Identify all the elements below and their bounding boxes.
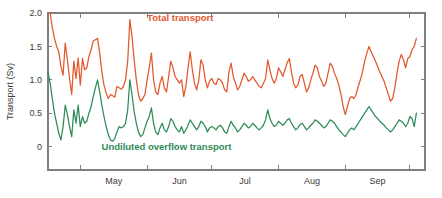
y-axis-title: Transport (Sv)	[5, 63, 15, 120]
series-line-total-transport	[48, 13, 416, 115]
y-tick-label-4: 2.0	[29, 8, 42, 18]
annotation-undiluted-overflow: Undiluted overflow transport	[102, 141, 233, 152]
transport-line-chart: 00.51.01.52.0MayJunJulAugSepTransport (S…	[0, 0, 442, 198]
chart-figure: 00.51.01.52.0MayJunJulAugSepTransport (S…	[0, 0, 442, 198]
y-tick-label-3: 1.5	[29, 42, 42, 52]
y-tick-label-1: 0.5	[29, 108, 42, 118]
x-month-label-jul: Jul	[239, 176, 251, 186]
annotation-total-transport: Total transport	[147, 12, 214, 23]
y-tick-label-2: 1.0	[29, 75, 42, 85]
series-layer	[48, 13, 416, 141]
axes-layer: 00.51.01.52.0MayJunJulAugSepTransport (S…	[5, 8, 425, 186]
x-month-label-sep: Sep	[370, 176, 386, 186]
x-month-label-jun: Jun	[172, 176, 187, 186]
x-month-label-aug: Aug	[304, 176, 320, 186]
x-month-label-may: May	[105, 176, 123, 186]
y-tick-label-0: 0	[37, 142, 42, 152]
